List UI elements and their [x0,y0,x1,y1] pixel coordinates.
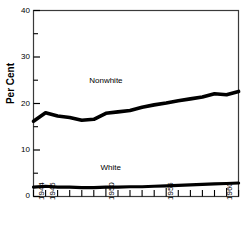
y-axis-major-ticks [34,11,41,197]
x-axis-ticks [34,188,239,197]
plot-frame [34,11,239,197]
plot-area: Nonwhite White [0,0,244,232]
series-label-white: White [100,163,121,172]
chart-container: Per Cent 40 30 20 10 0 1944 1945 1950 19… [0,0,244,232]
series-line-nonwhite [34,91,239,121]
series-label-nonwhite: Nonwhite [89,76,123,85]
series-line-white [34,183,239,188]
